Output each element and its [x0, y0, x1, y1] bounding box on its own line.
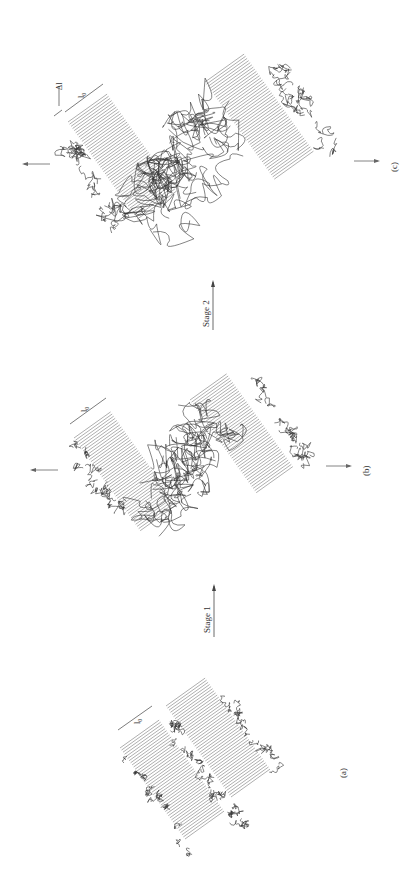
l0-label-c: l₀ — [77, 93, 86, 98]
l0-label-b: l₀ — [80, 407, 89, 412]
panel-b: l₀ (b) — [30, 374, 371, 536]
stage-2-transition: Stage 2 — [201, 280, 215, 330]
panel-b-amorphous-chains — [69, 377, 314, 536]
panel-c-lamella-right — [205, 54, 313, 179]
arrowhead-icon — [211, 280, 215, 287]
panel-a-amorphous-chains — [122, 696, 283, 856]
lamellae-deformation-diagram: l₀ Δl (c) Stage 2 l₀ (b) Stage 1 l₀ (a) — [0, 0, 409, 882]
l0-label-a: l₀ — [133, 719, 142, 724]
panel-b-lamella-left — [74, 412, 177, 531]
panel-c-amorphous-chains — [55, 64, 337, 246]
stage-1-label: Stage 1 — [202, 606, 212, 633]
panel-c: l₀ Δl (c) — [22, 54, 399, 246]
figure: l₀ Δl (c) Stage 2 l₀ (b) Stage 1 l₀ (a) — [0, 0, 409, 882]
arrowhead-icon — [22, 162, 28, 166]
panel-b-lamella-right — [190, 374, 293, 493]
panel-a: l₀ (a) — [118, 678, 348, 856]
arrowhead-icon — [30, 468, 36, 472]
arrowhead-icon — [346, 464, 352, 468]
dl-dimension-line — [54, 110, 62, 116]
stage-2-label: Stage 2 — [201, 300, 211, 327]
panel-b-label: (b) — [361, 466, 371, 477]
arrowhead-icon — [374, 159, 380, 163]
panel-a-label: (a) — [338, 768, 348, 778]
arrowhead-icon — [212, 584, 216, 591]
delta-l-label: Δl — [55, 82, 64, 90]
l0-dimension-line-a — [118, 706, 152, 730]
stage-1-transition: Stage 1 — [202, 584, 216, 637]
panel-c-label: (c) — [389, 162, 399, 172]
panel-a-lamella-right — [166, 678, 270, 797]
